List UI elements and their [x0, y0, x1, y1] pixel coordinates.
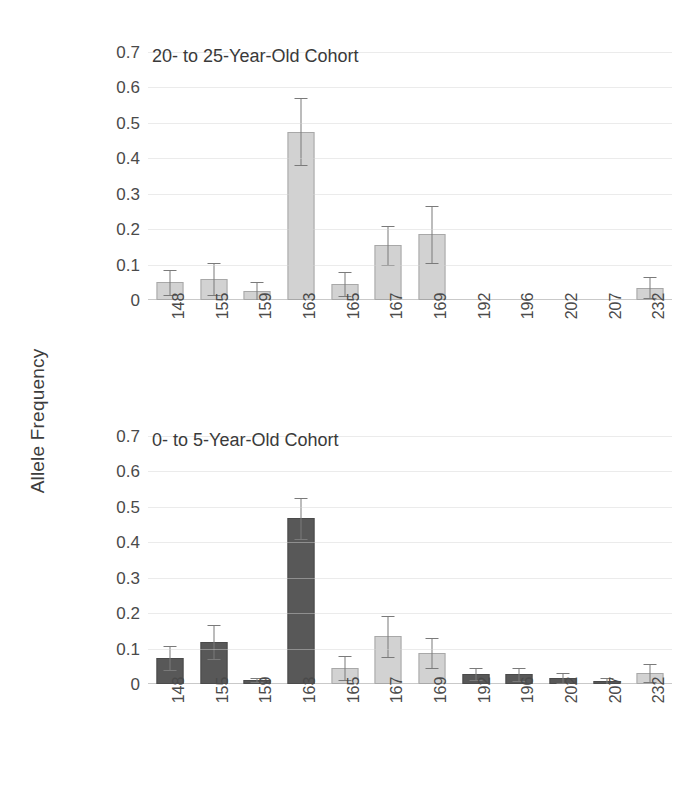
error-bar-cap: [382, 226, 395, 227]
error-bar-148: [169, 270, 170, 295]
bar-group-bottom: [148, 436, 672, 684]
bar-slot: [585, 436, 629, 684]
gridline: [148, 87, 672, 88]
y-tick-label: 0.3: [116, 569, 140, 586]
chart-title-top: 20- to 25-Year-Old Cohort: [152, 46, 358, 67]
x-label-cell: 165: [323, 302, 367, 360]
x-tick-label: 159: [257, 677, 275, 704]
x-tick-label: 155: [214, 677, 232, 704]
x-tick-label: 159: [257, 293, 275, 320]
y-tick-label: 0.2: [116, 221, 140, 238]
gridline: [148, 265, 672, 266]
x-tick-label: 165: [345, 677, 363, 704]
chart-panel-top: 0.70.60.50.40.30.20.10 20- to 25-Year-Ol…: [104, 52, 676, 300]
bar-slot: [497, 52, 541, 300]
bar-slot: [541, 436, 585, 684]
error-bar-155: [213, 625, 214, 659]
y-tick-label: 0.3: [116, 185, 140, 202]
bar-slot: [148, 436, 192, 684]
bar-slot: [235, 52, 279, 300]
y-axis-ticks-top: 0.70.60.50.40.30.20.10: [104, 52, 140, 300]
x-tick-label: 232: [650, 293, 668, 320]
x-label-cell: 148: [148, 686, 192, 744]
x-tick-label: 202: [563, 677, 581, 704]
error-bar-cap: [294, 498, 307, 499]
x-label-cell: 148: [148, 302, 192, 360]
x-tick-label: 148: [170, 293, 188, 320]
figure-canvas: Allele Frequency 0.70.60.50.40.30.20.10 …: [0, 0, 688, 810]
error-bar-167: [388, 226, 389, 265]
bar-slot: [192, 52, 236, 300]
x-tick-label: 169: [432, 293, 450, 320]
y-tick-label: 0.2: [116, 605, 140, 622]
chart-panel-bottom: 0.70.60.50.40.30.20.10 0- to 5-Year-Old …: [104, 436, 676, 684]
error-bar-cap: [425, 668, 438, 669]
bar-slot: [585, 52, 629, 300]
x-label-cell: 192: [454, 686, 498, 744]
error-bar-155: [213, 263, 214, 295]
error-bar-cap: [469, 668, 482, 669]
gridline: [148, 578, 672, 579]
x-tick-label: 207: [607, 677, 625, 704]
x-tick-label: 167: [388, 293, 406, 320]
error-bar-cap: [294, 165, 307, 166]
x-tick-label: 192: [476, 293, 494, 320]
error-bar-cap: [513, 668, 526, 669]
error-bar-cap: [207, 625, 220, 626]
y-tick-label: 0: [131, 292, 140, 309]
x-label-cell: 167: [366, 302, 410, 360]
y-tick-label: 0.4: [116, 150, 140, 167]
chart-title-bottom: 0- to 5-Year-Old Cohort: [152, 430, 338, 451]
error-bar-cap: [644, 664, 657, 665]
error-bar-167: [388, 616, 389, 657]
bar-slot: [541, 52, 585, 300]
gridline: [148, 613, 672, 614]
x-label-cell: 169: [410, 302, 454, 360]
x-tick-label: 163: [301, 677, 319, 704]
error-bar-cap: [207, 659, 220, 660]
error-bar-148: [169, 646, 170, 669]
gridline: [148, 649, 672, 650]
y-tick-label: 0: [131, 676, 140, 693]
plot-area-top: [148, 52, 672, 300]
x-tick-label: 148: [170, 677, 188, 704]
gridline: [148, 471, 672, 472]
y-tick-label: 0.7: [116, 428, 140, 445]
y-tick-label: 0.1: [116, 256, 140, 273]
y-axis-title: Allele Frequency: [27, 321, 49, 521]
x-tick-label: 169: [432, 677, 450, 704]
error-bar-169: [431, 638, 432, 668]
error-bar-cap: [382, 616, 395, 617]
x-label-cell: 196: [497, 302, 541, 360]
bar-slot: [235, 436, 279, 684]
error-bar-cap: [556, 673, 569, 674]
gridline: [148, 123, 672, 124]
x-tick-label: 167: [388, 677, 406, 704]
bar-slot: [410, 436, 454, 684]
x-label-cell: 196: [497, 686, 541, 744]
bar-slot: [410, 52, 454, 300]
y-tick-label: 0.5: [116, 498, 140, 515]
y-tick-label: 0.7: [116, 44, 140, 61]
x-tick-label: 196: [519, 293, 537, 320]
bar-slot: [366, 52, 410, 300]
error-bar-cap: [425, 206, 438, 207]
x-label-cell: 159: [235, 686, 279, 744]
y-tick-label: 0.4: [116, 534, 140, 551]
x-tick-label: 192: [476, 677, 494, 704]
x-tick-label: 165: [345, 293, 363, 320]
x-tick-label: 155: [214, 293, 232, 320]
bar-slot: [628, 436, 672, 684]
error-bar-163: [300, 498, 301, 539]
y-tick-label: 0.6: [116, 463, 140, 480]
error-bar-cap: [644, 277, 657, 278]
bar-slot: [323, 52, 367, 300]
y-axis-ticks-bottom: 0.70.60.50.40.30.20.10: [104, 436, 140, 684]
gridline: [148, 507, 672, 508]
bar-group-top: [148, 52, 672, 300]
y-tick-label: 0.6: [116, 79, 140, 96]
plot-area-bottom: [148, 436, 672, 684]
error-bar-cap: [163, 646, 176, 647]
x-label-cell: 163: [279, 302, 323, 360]
gridline: [148, 542, 672, 543]
